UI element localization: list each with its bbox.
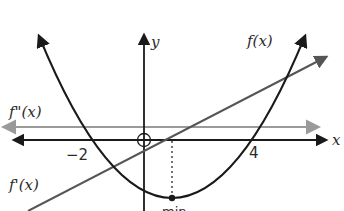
f-prime-line bbox=[28, 57, 326, 211]
tick-label-4: 4 bbox=[249, 144, 259, 162]
min-point bbox=[169, 195, 175, 201]
calculus-diagram: y x f(x) f"(x) f'(x) −2 4 min bbox=[0, 0, 344, 211]
f-prime-label: f'(x) bbox=[8, 176, 39, 194]
y-axis-label: y bbox=[150, 33, 160, 51]
f-label: f(x) bbox=[246, 32, 273, 50]
x-axis-label: x bbox=[332, 131, 341, 149]
tick-label-neg2: −2 bbox=[66, 146, 88, 164]
f-double-prime-label: f"(x) bbox=[8, 103, 42, 121]
f-parabola bbox=[39, 36, 305, 198]
min-label: min bbox=[162, 204, 187, 211]
